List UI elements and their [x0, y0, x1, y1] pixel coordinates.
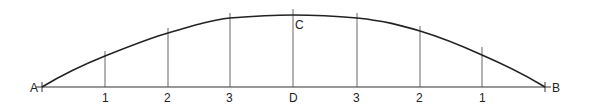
arc-diagram: A B C 1 2 3 D 3 2 1 [0, 0, 590, 108]
tick-label-3-right: 3 [353, 91, 360, 105]
tick-label-1-right: 1 [479, 91, 486, 105]
label-b: B [552, 81, 560, 95]
tick-label-2-left: 2 [164, 91, 171, 105]
label-a: A [30, 81, 38, 95]
label-c: C [295, 18, 304, 32]
arc-curve [42, 15, 545, 87]
tick-label-3-left: 3 [226, 91, 233, 105]
tick-label-1-left: 1 [102, 91, 109, 105]
tick-label-2-right: 2 [416, 91, 423, 105]
tick-label-d: D [289, 91, 298, 105]
